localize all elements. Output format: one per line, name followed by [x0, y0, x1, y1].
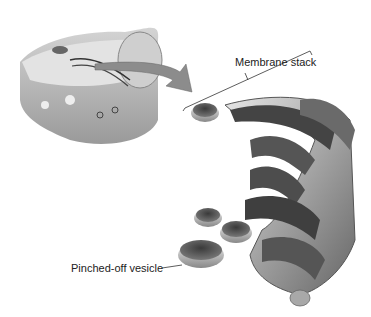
vesicle-label: Pinched-off vesicle: [71, 262, 163, 274]
cell-cutaway: [20, 28, 162, 144]
pinched-off-vesicle: [178, 240, 224, 268]
golgi-stack: [225, 97, 355, 306]
membrane-stack-label: Membrane stack: [235, 56, 316, 68]
vesicle-leader-line: [162, 265, 182, 268]
golgi-diagram: [0, 0, 371, 317]
vesicle-group: [178, 103, 252, 268]
